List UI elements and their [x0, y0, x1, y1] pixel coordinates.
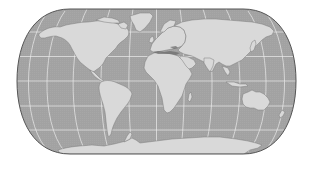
- world-map: Natural Earth (pseudocylindrical, rounde…: [0, 0, 317, 174]
- world-map-svg: [0, 0, 317, 174]
